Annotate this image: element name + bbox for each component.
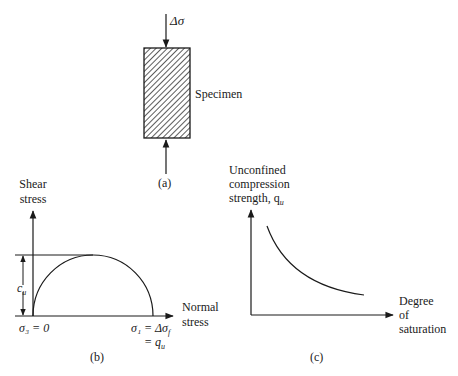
qu-label: = qu — [144, 335, 165, 351]
caption-c: (c) — [310, 350, 323, 364]
mohr-circle — [33, 255, 153, 316]
panel-a: Δσ Specimen (a) — [144, 13, 242, 190]
specimen-rectangle — [144, 48, 190, 138]
unconfined-compression-diagram: Δσ Specimen (a) Shear stress cu σ₃ = 0 σ… — [0, 0, 458, 376]
normal-label-line1: Normal — [182, 300, 219, 314]
strength-label-line1: Unconfined — [229, 163, 286, 177]
shear-label-line1: Shear — [19, 177, 46, 191]
caption-a: (a) — [158, 176, 171, 190]
saturation-label-line1: Degree — [399, 294, 434, 308]
panel-b: Shear stress cu σ₃ = 0 σ₁ = Δσf = qu Nor… — [15, 177, 219, 364]
caption-b: (b) — [90, 350, 104, 364]
strength-vs-saturation-curve — [267, 226, 364, 295]
saturation-label-line3: saturation — [399, 322, 446, 336]
strength-label-line2: compression — [229, 177, 290, 191]
panel-c: Unconfined compression strength, qu Degr… — [229, 163, 446, 364]
normal-label-line2: stress — [182, 315, 209, 329]
strength-label-line3: strength, qu — [229, 191, 284, 207]
shear-label-line2: stress — [20, 192, 47, 206]
load-delta-sigma-label: Δσ — [169, 13, 185, 28]
sigma3-label: σ₃ = 0 — [19, 321, 49, 335]
cu-label: cu — [17, 281, 26, 297]
specimen-label: Specimen — [195, 87, 242, 101]
saturation-label-line2: of — [399, 308, 409, 322]
